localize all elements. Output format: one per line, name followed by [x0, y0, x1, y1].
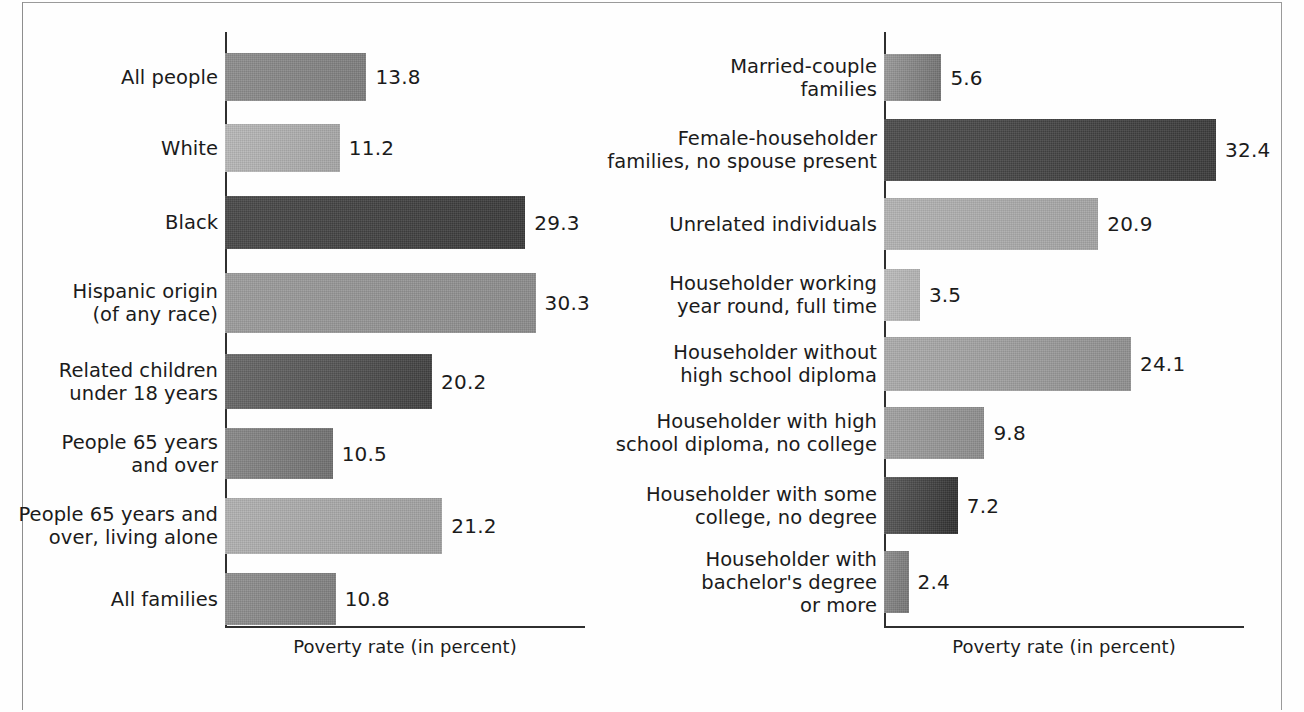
bar-value-label: 9.8 — [993, 423, 1025, 443]
category-label: Black — [0, 211, 218, 234]
bar-value-label: 7.2 — [967, 496, 999, 516]
bar — [884, 337, 1131, 391]
bar — [225, 498, 442, 554]
bar-value-label: 29.3 — [534, 213, 579, 233]
bar — [225, 573, 336, 625]
category-label: People 65 years and over, living alone — [0, 503, 218, 549]
chart-panels: 13.811.229.330.320.210.521.210.8 Poverty… — [0, 0, 1304, 712]
bar-row: 7.2 — [884, 477, 999, 534]
bar — [225, 124, 340, 172]
category-label: Married-couple families — [577, 55, 877, 101]
plot-area-left: 13.811.229.330.320.210.521.210.8 — [225, 32, 585, 628]
bar-value-label: 2.4 — [918, 572, 950, 592]
bar-row: 5.6 — [884, 54, 983, 101]
bar-row: 24.1 — [884, 337, 1185, 391]
chart-panel-right: 5.632.420.93.524.19.87.22.4 Poverty rate… — [652, 0, 1304, 712]
bar-value-label: 11.2 — [349, 138, 394, 158]
bar — [884, 407, 984, 459]
category-label: Female-householder families, no spouse p… — [577, 127, 877, 173]
bar-row: 11.2 — [225, 124, 394, 172]
bar-row: 20.9 — [884, 198, 1153, 250]
bar-value-label: 10.8 — [345, 589, 390, 609]
category-label: Householder without high school diploma — [577, 341, 877, 387]
bar-row: 32.4 — [884, 119, 1270, 181]
x-axis-title-left: Poverty rate (in percent) — [225, 636, 585, 657]
bar-group-right: 5.632.420.93.524.19.87.22.4 — [884, 32, 1244, 628]
bar-row: 2.4 — [884, 551, 950, 613]
bar-row: 29.3 — [225, 196, 580, 249]
bar-value-label: 10.5 — [342, 444, 387, 464]
bar — [225, 53, 366, 101]
bar-row: 3.5 — [884, 269, 961, 321]
category-label: Householder working year round, full tim… — [577, 272, 877, 318]
plot-area-right: 5.632.420.93.524.19.87.22.4 — [884, 32, 1244, 628]
chart-panel-left: 13.811.229.330.320.210.521.210.8 Poverty… — [0, 0, 652, 712]
bar-value-label: 32.4 — [1225, 140, 1270, 160]
bar — [225, 354, 432, 409]
bar-value-label: 3.5 — [929, 285, 961, 305]
category-label: Householder with some college, no degree — [577, 483, 877, 529]
category-label: Hispanic origin (of any race) — [0, 280, 218, 326]
bar — [884, 198, 1098, 250]
bar-value-label: 20.9 — [1107, 214, 1152, 234]
figure-page: 13.811.229.330.320.210.521.210.8 Poverty… — [0, 0, 1304, 712]
category-label: White — [0, 137, 218, 160]
category-label: All families — [0, 588, 218, 611]
category-label: Householder with high school diploma, no… — [577, 410, 877, 456]
bar-row: 13.8 — [225, 53, 421, 101]
bar — [225, 428, 333, 479]
bar-row: 21.2 — [225, 498, 497, 554]
bar-row: 30.3 — [225, 273, 590, 333]
bar — [884, 119, 1216, 181]
bar-value-label: 5.6 — [950, 68, 982, 88]
category-label: People 65 years and over — [0, 431, 218, 477]
bar — [884, 477, 958, 534]
category-label: All people — [0, 66, 218, 89]
bar-row: 9.8 — [884, 407, 1026, 459]
bar-group-left: 13.811.229.330.320.210.521.210.8 — [225, 32, 585, 628]
bar — [225, 196, 525, 249]
bar — [884, 54, 941, 101]
x-axis-title-right: Poverty rate (in percent) — [884, 636, 1244, 657]
bar — [884, 551, 909, 613]
bar-row: 10.5 — [225, 428, 387, 479]
category-label: Related children under 18 years — [0, 359, 218, 405]
category-label: Unrelated individuals — [577, 213, 877, 236]
bar-value-label: 21.2 — [451, 516, 496, 536]
bar — [225, 273, 536, 333]
bar-value-label: 13.8 — [375, 67, 420, 87]
bar-value-label: 20.2 — [441, 372, 486, 392]
category-label: Householder with bachelor's degree or mo… — [577, 548, 877, 617]
bar — [884, 269, 920, 321]
bar-value-label: 24.1 — [1140, 354, 1185, 374]
bar-row: 10.8 — [225, 573, 390, 625]
bar-row: 20.2 — [225, 354, 486, 409]
